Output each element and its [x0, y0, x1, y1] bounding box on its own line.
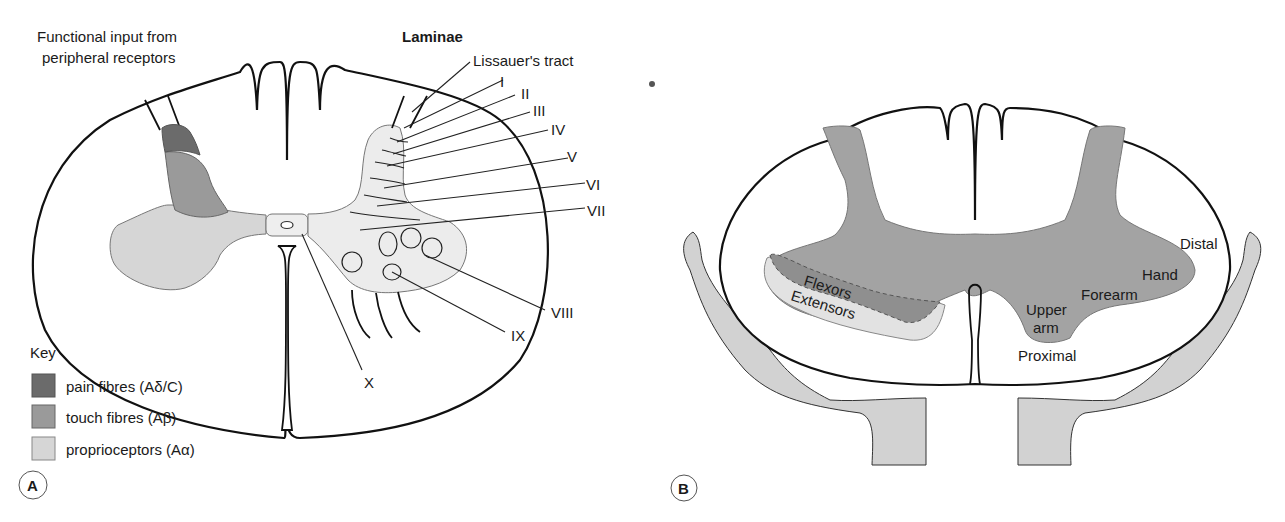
lamina-label-ix: IX [511, 327, 525, 344]
proximal-label: Proximal [1018, 347, 1076, 364]
key-swatch-touch [32, 405, 55, 428]
lamina-label-viii: VIII [551, 304, 574, 321]
laminae-heading: Laminae [402, 28, 463, 45]
upper-label: Upper [1026, 301, 1067, 318]
key-swatch-proprioceptor [32, 437, 55, 460]
key-swatch-pain [32, 374, 55, 397]
panel-b-spinal-cord: Flexors Extensors Distal Hand Forearm Up… [671, 104, 1261, 501]
key-label-proprioceptor: proprioceptors (Aα) [66, 441, 195, 458]
lamina-label-iii: III [533, 102, 546, 119]
key-title: Key [30, 344, 56, 361]
figure-canvas: Functional input from peripheral recepto… [0, 0, 1285, 522]
distal-label: Distal [1180, 235, 1218, 252]
lamina-label-iv: IV [551, 121, 565, 138]
panel-a-badge: A [27, 477, 38, 494]
panel-b-badge: B [678, 480, 689, 497]
lamina-label-vii: VII [587, 202, 605, 219]
key-label-pain: pain fibres (Aδ/C) [66, 378, 183, 395]
speck-mark [649, 81, 655, 87]
lamina-label-x: X [364, 374, 374, 391]
panel-a-spinal-cord: Functional input from peripheral recepto… [19, 28, 605, 499]
arm-label: arm [1033, 319, 1059, 336]
lamina-label-vi: VI [586, 176, 600, 193]
lamina-label-ii: II [521, 85, 529, 102]
lamina-label-i: I [500, 73, 504, 90]
input-label-line1: Functional input from [37, 28, 177, 45]
lissauer-label: Lissauer's tract [473, 52, 574, 69]
hand-label: Hand [1142, 266, 1178, 283]
forearm-label: Forearm [1081, 286, 1138, 303]
input-label-line2: peripheral receptors [42, 49, 175, 66]
lamina-label-v: V [567, 148, 577, 165]
key-label-touch: touch fibres (Aβ) [66, 409, 176, 426]
